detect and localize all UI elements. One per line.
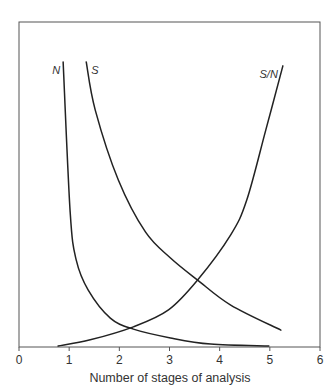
x-tick-label: 0 xyxy=(16,353,23,367)
x-tick-label: 2 xyxy=(116,353,123,367)
curve-s xyxy=(86,62,281,330)
curve-s-over-n xyxy=(58,66,283,346)
series-labels: NSS/N xyxy=(52,64,278,80)
x-axis-ticks xyxy=(19,347,320,351)
series-label-n: N xyxy=(52,64,60,76)
chart: 0123456 NSS/N Number of stages of analys… xyxy=(0,0,333,391)
x-tick-label: 3 xyxy=(166,353,173,367)
x-axis-label: Number of stages of analysis xyxy=(89,371,250,385)
x-axis-tick-labels: 0123456 xyxy=(16,353,324,367)
x-tick-label: 6 xyxy=(317,353,324,367)
series-label-s: S xyxy=(91,64,99,76)
x-tick-label: 5 xyxy=(266,353,273,367)
series-label-s-over-n: S/N xyxy=(260,68,278,80)
series-curves xyxy=(58,62,283,346)
x-tick-label: 1 xyxy=(66,353,73,367)
x-tick-label: 4 xyxy=(216,353,223,367)
